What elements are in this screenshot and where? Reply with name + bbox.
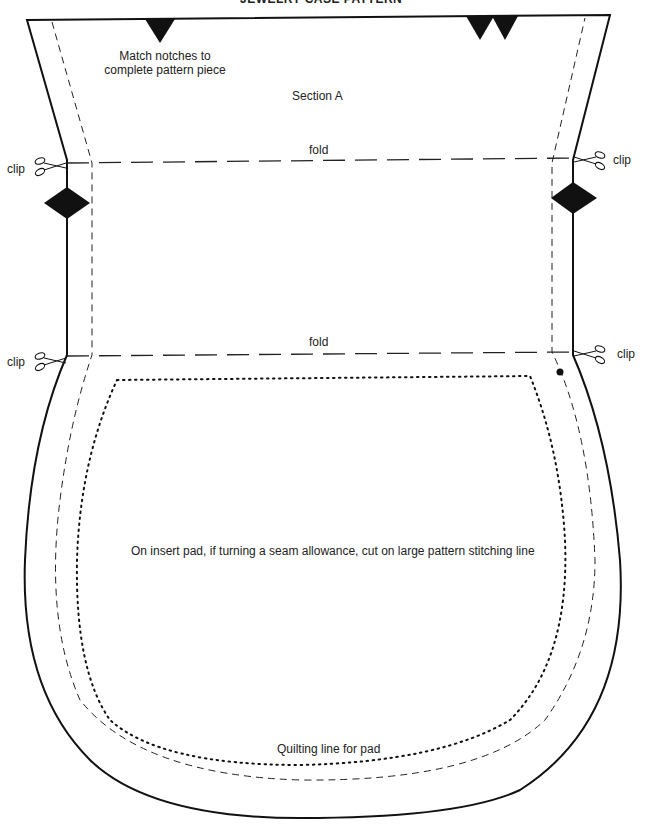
quilting-line-label: Quilting line for pad	[277, 742, 380, 756]
scissors-icon	[574, 344, 606, 365]
clip-label-bottom-right: clip	[617, 347, 635, 361]
notch-left-icon	[145, 19, 175, 43]
match-notches-line-1: Match notches to	[100, 49, 230, 63]
fold-line-top	[67, 158, 573, 163]
clip-label-bottom-left: clip	[7, 355, 25, 369]
clip-label-top-right: clip	[613, 153, 631, 167]
scissors-icon	[34, 156, 66, 177]
pattern-sheet: JEWELRY CASE PATTERN	[0, 0, 647, 830]
insert-pad-note: On insert pad, if turning a seam allowan…	[131, 544, 535, 558]
section-label: Section A	[292, 89, 343, 103]
fold-line-bottom	[67, 352, 573, 356]
fold-label-top: fold	[309, 143, 328, 157]
pattern-piece	[0, 0, 647, 830]
clip-label-top-left: clip	[7, 162, 25, 176]
fold-label-bottom: fold	[309, 335, 328, 349]
dot-marker-icon	[557, 369, 564, 376]
match-notches-line-2: complete pattern piece	[100, 63, 230, 77]
notch-right-b-icon	[492, 16, 518, 40]
cutting-line	[25, 15, 621, 818]
scissors-icon	[574, 150, 606, 171]
diamond-left-icon	[44, 187, 90, 219]
stitching-line	[52, 18, 595, 780]
diamond-right-icon	[551, 182, 597, 214]
quilting-line	[77, 376, 565, 765]
notch-right-a-icon	[466, 16, 494, 40]
match-notches-note: Match notches to complete pattern piece	[100, 49, 230, 77]
